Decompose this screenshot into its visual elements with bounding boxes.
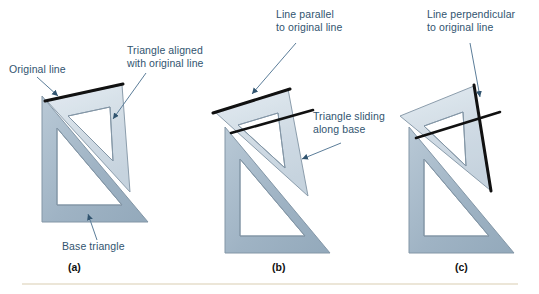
aligned-triangle-a <box>47 85 130 192</box>
footer-divider <box>22 283 518 285</box>
panel-letter-a: (a) <box>68 261 81 273</box>
figure-canvas: Original line Triangle aligned with orig… <box>0 0 539 294</box>
callout-base-triangle: Base triangle <box>62 240 152 253</box>
callout-line-parallel: Line parallel to original line <box>276 8 376 34</box>
callout-triangle-sliding: Triangle sliding along base <box>313 110 418 136</box>
leader-original-line <box>37 77 58 96</box>
callout-triangle-aligned: Triangle aligned with original line <box>127 44 227 70</box>
panel-letter-b: (b) <box>272 261 285 273</box>
callout-original-line: Original line <box>9 63 89 76</box>
base-triangle-a <box>42 96 148 222</box>
leader-line-parallel <box>252 43 296 94</box>
panel-a-drawing <box>37 73 148 240</box>
panel-b-drawing <box>213 43 341 253</box>
leader-triangle-sliding <box>302 143 341 159</box>
panel-letter-c: (c) <box>455 261 468 273</box>
panel-c-drawing <box>400 43 514 253</box>
callout-line-perpendicular: Line perpendicular to original line <box>427 8 537 34</box>
base-triangle-c <box>409 127 514 253</box>
base-triangle-b <box>225 127 330 253</box>
